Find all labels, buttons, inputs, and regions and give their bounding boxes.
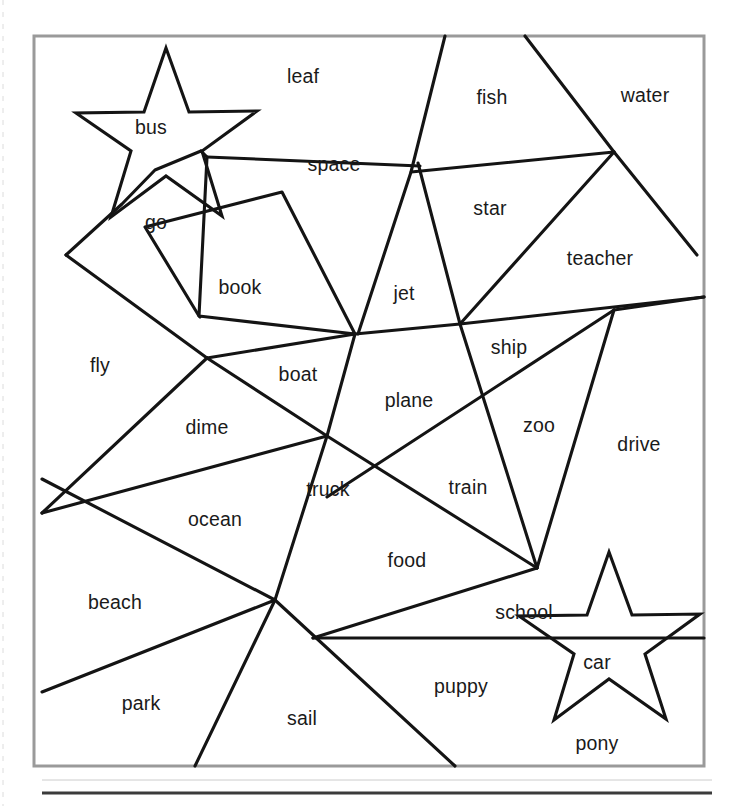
word-label-plane: plane: [385, 389, 434, 411]
word-label-park: park: [122, 692, 161, 714]
segment-top-left-to-space: [66, 151, 201, 255]
word-puzzle-figure: busleaffishwaterspacestarteachergobookje…: [0, 0, 738, 806]
word-label-drive: drive: [617, 433, 660, 455]
page-margin-guides: [3, 0, 712, 806]
word-label-fly: fly: [90, 354, 110, 376]
word-label-school: school: [495, 601, 553, 623]
segment-teacher-diagonal: [460, 152, 614, 324]
segment-star-jet: [418, 163, 460, 324]
word-label-puppy: puppy: [434, 675, 488, 697]
word-label-dime: dime: [185, 416, 228, 438]
word-label-ship: ship: [491, 336, 528, 358]
word-label-water: water: [620, 84, 670, 106]
word-label-sail: sail: [287, 707, 317, 729]
word-label-book: book: [218, 276, 261, 298]
puzzle-star-shapes-group: [76, 48, 700, 720]
word-label-beach: beach: [88, 591, 142, 613]
word-label-leaf: leaf: [287, 65, 320, 87]
segment-long-horizontal: [66, 255, 207, 358]
word-label-go: go: [145, 211, 167, 233]
word-label-ocean: ocean: [188, 508, 242, 530]
word-label-car: car: [583, 651, 611, 673]
segment-sail-puppy: [275, 600, 455, 766]
word-label-truck: truck: [306, 478, 349, 500]
word-label-bus: bus: [135, 116, 167, 138]
worksheet-page: busleaffishwaterspacestarteachergobookje…: [0, 0, 738, 806]
word-label-food: food: [388, 549, 427, 571]
segment-plane-branch: [614, 297, 704, 310]
star-shape-bottom: [519, 552, 700, 720]
word-label-zoo: zoo: [523, 414, 555, 436]
segment-zoo-diagonal: [327, 310, 614, 497]
word-label-pony: pony: [575, 732, 618, 754]
segment-book-quad: [145, 192, 355, 334]
segment-drive-left: [537, 310, 614, 568]
segment-park-sail: [195, 600, 275, 766]
word-label-train: train: [449, 476, 488, 498]
segment-ship-fan: [460, 324, 537, 568]
puzzle-word-labels-group: busleaffishwaterspacestarteachergobookje…: [88, 65, 670, 754]
segment-ocean-beach: [42, 479, 275, 600]
segment-truck-food: [327, 436, 537, 568]
word-label-space: space: [307, 153, 360, 175]
word-label-teacher: teacher: [567, 247, 634, 269]
segment-fish-bottom: [411, 152, 614, 172]
word-label-boat: boat: [279, 363, 318, 385]
word-label-jet: jet: [392, 282, 415, 304]
word-label-star: star: [473, 197, 507, 219]
segment-beach-park: [42, 600, 275, 692]
word-label-fish: fish: [476, 86, 507, 108]
segment-space-outline: [199, 151, 207, 317]
